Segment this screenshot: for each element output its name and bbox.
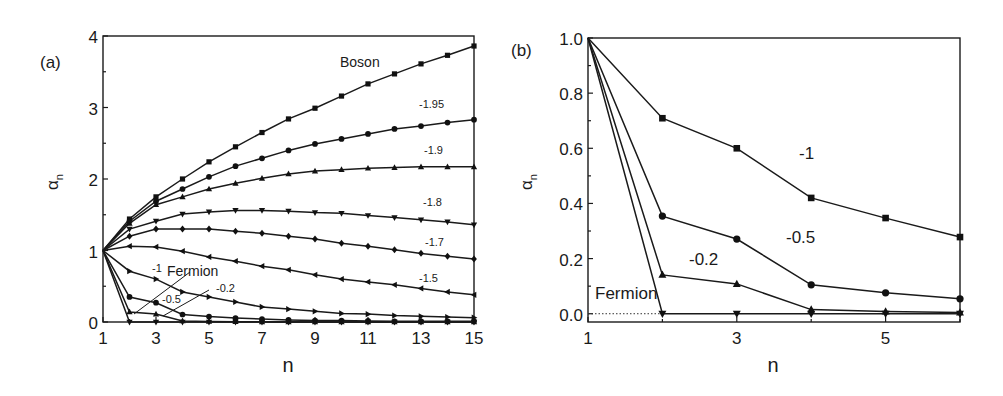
circle-marker: [392, 126, 398, 132]
triangle-left-marker: [285, 267, 291, 273]
square-marker: [339, 93, 344, 98]
triangle-left-marker: [153, 244, 159, 250]
y-tick-label: 1.0: [559, 30, 583, 49]
diamond-marker: [153, 226, 159, 233]
triangle-left-marker: [444, 289, 450, 295]
curve-label: -1.7: [425, 236, 444, 248]
diamond-marker: [392, 246, 398, 253]
series-fermion: [588, 38, 964, 318]
diamond-marker: [206, 226, 212, 233]
series-1-95: [103, 117, 477, 251]
square-marker: [659, 115, 666, 122]
panel-b-y-axis-label: αn: [517, 174, 539, 190]
series-line: [588, 38, 960, 299]
svg-text:αn: αn: [517, 174, 539, 190]
diamond-marker: [339, 240, 345, 247]
square-marker: [734, 145, 741, 152]
y-tick-label: 0: [89, 314, 98, 333]
series-0-5: [588, 38, 964, 302]
square-marker: [957, 234, 964, 241]
series-1: [588, 38, 963, 240]
circle-marker: [733, 235, 740, 242]
panel-a-plot-area: 1357911131501234: [89, 28, 484, 348]
square-marker: [808, 195, 815, 202]
y-tick-label: 0.8: [559, 85, 583, 104]
y-tick-label: 0.0: [559, 306, 583, 325]
y-tick-label: 3: [89, 100, 98, 119]
curve-label: -1: [799, 144, 814, 163]
square-marker: [206, 159, 211, 164]
figure: (a) αn n 1357911131501234 Boson-1.95-1.9…: [0, 0, 1003, 396]
panel-b-chart: (b) αn n 1350.00.20.40.60.81.0 -1-0.5-0.…: [511, 30, 964, 376]
x-tick-label: 7: [257, 329, 266, 348]
circle-marker: [127, 294, 133, 300]
y-tick-label: 0.4: [559, 195, 583, 214]
triangle-up-marker: [658, 271, 666, 278]
y-tick-label: 0.2: [559, 251, 583, 270]
circle-marker: [445, 120, 451, 126]
triangle-left-marker: [179, 248, 185, 254]
x-tick-label: 15: [465, 329, 484, 348]
circle-marker: [312, 141, 318, 147]
curve-label: -0.5: [786, 228, 815, 247]
y-tick-label: 0.6: [559, 140, 583, 159]
curve-label: -1.5: [419, 272, 438, 284]
curve-label: -1.8: [423, 196, 442, 208]
circle-marker: [286, 148, 292, 154]
diamond-marker: [127, 233, 133, 240]
circle-marker: [418, 123, 424, 129]
circle-marker: [339, 136, 345, 142]
triangle-right-marker: [233, 299, 239, 305]
panel-a-label: (a): [40, 53, 61, 72]
circle-marker: [206, 174, 212, 180]
circle-marker: [365, 131, 371, 137]
triangle-left-marker: [338, 276, 344, 282]
diamond-marker: [365, 243, 371, 250]
curve-label: -1: [152, 262, 162, 274]
triangle-left-marker: [391, 282, 397, 288]
x-tick-label: 11: [359, 329, 377, 348]
triangle-right-marker: [127, 268, 133, 274]
y-tick-label: 1: [89, 243, 98, 262]
square-marker: [471, 43, 476, 48]
circle-marker: [233, 163, 239, 169]
diamond-marker: [259, 230, 265, 237]
alpha-symbol: α: [517, 180, 536, 190]
panel-a-x-axis-label: n: [282, 354, 293, 376]
diamond-marker: [312, 236, 318, 243]
svg-text:αn: αn: [43, 174, 65, 190]
diamond-marker: [180, 226, 186, 233]
diamond-marker: [471, 256, 477, 263]
circle-marker: [259, 155, 265, 161]
panel-b-label: (b): [511, 41, 532, 60]
panel-a-y-axis-label: αn: [43, 174, 65, 190]
triangle-right-marker: [313, 308, 319, 314]
triangle-left-marker: [126, 243, 132, 249]
curve-label: Boson: [340, 54, 380, 70]
curve-label: -0.5: [162, 293, 181, 305]
series-line: [103, 211, 474, 251]
triangle-left-marker: [418, 285, 424, 291]
triangle-right-marker: [366, 311, 372, 317]
triangle-right-marker: [154, 276, 160, 282]
triangle-right-marker: [180, 289, 186, 295]
circle-marker: [956, 295, 963, 302]
series-0-2: [588, 38, 964, 316]
x-tick-label: 3: [151, 329, 160, 348]
triangle-left-marker: [312, 272, 318, 278]
square-marker: [286, 116, 291, 121]
square-marker: [365, 81, 370, 86]
x-tick-label: 1: [98, 329, 107, 348]
circle-marker: [882, 289, 889, 296]
axes-frame: [588, 38, 960, 322]
series-line: [588, 38, 960, 313]
x-tick-label: 9: [310, 329, 319, 348]
y-tick-label: 4: [89, 28, 98, 47]
diamond-marker: [286, 233, 292, 240]
triangle-right-marker: [207, 294, 213, 300]
subscript-n: n: [527, 174, 539, 180]
triangle-left-marker: [232, 258, 238, 264]
triangle-right-marker: [392, 312, 398, 318]
curve-label: Fermion: [167, 263, 218, 279]
triangle-left-marker: [365, 279, 371, 285]
